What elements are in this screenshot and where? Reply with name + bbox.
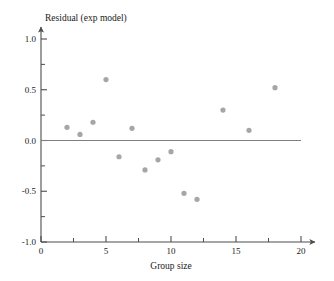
y-tick-label: 0.0 <box>25 136 37 146</box>
x-tick-label: 15 <box>232 246 242 256</box>
y-tick-label: 0.5 <box>25 85 37 95</box>
data-point <box>181 191 186 196</box>
data-point <box>142 167 147 172</box>
data-point <box>220 107 225 112</box>
data-point <box>129 126 134 131</box>
chart-canvas: -1.0-0.50.00.51.005101520Residual (exp m… <box>0 0 334 281</box>
x-axis-title: Group size <box>150 261 191 271</box>
y-tick-label: -0.5 <box>22 186 37 196</box>
data-point <box>272 85 277 90</box>
data-point <box>155 157 160 162</box>
data-point <box>77 132 82 137</box>
data-point <box>103 77 108 82</box>
y-axis-title: Residual (exp model) <box>45 13 127 24</box>
residual-scatter-chart: -1.0-0.50.00.51.005101520Residual (exp m… <box>0 0 334 281</box>
data-points-group <box>64 77 277 202</box>
x-tick-label: 0 <box>39 246 44 256</box>
y-tick-label: -1.0 <box>22 237 37 247</box>
data-point <box>168 149 173 154</box>
data-point <box>194 197 199 202</box>
y-tick-label: 1.0 <box>25 34 37 44</box>
data-point <box>64 125 69 130</box>
data-point <box>116 154 121 159</box>
data-point <box>246 128 251 133</box>
data-point <box>90 120 95 125</box>
x-tick-label: 20 <box>297 246 307 256</box>
x-tick-label: 5 <box>104 246 109 256</box>
x-tick-label: 10 <box>167 246 177 256</box>
